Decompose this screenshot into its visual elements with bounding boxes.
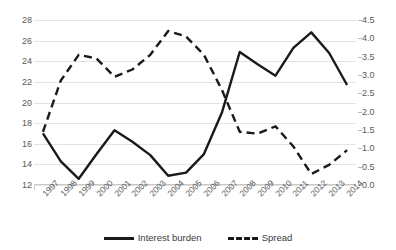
y-axis-right-tick-label: 3.5	[362, 52, 394, 61]
y-axis-right-tick-label: 3.0	[362, 71, 394, 80]
x-axis-tickmark	[52, 186, 53, 190]
x-axis-tickmark	[106, 186, 107, 190]
legend-swatch-dashed-icon	[228, 237, 258, 240]
x-axis-tickmark	[302, 186, 303, 190]
chart-legend: Interest burden Spread	[0, 228, 396, 248]
y-axis-right-tickmark	[358, 20, 362, 21]
y-axis-right-tickmark	[358, 38, 362, 39]
y-axis-right: 0.00.51.01.52.02.53.03.54.04.5	[360, 20, 394, 185]
x-axis-tickmark	[88, 186, 89, 190]
x-axis-tickmark	[213, 186, 214, 190]
x-axis-tickmark	[231, 186, 232, 190]
plot-area	[34, 20, 356, 185]
x-axis-tickmark	[141, 186, 142, 190]
y-axis-left-tickmark	[28, 164, 32, 165]
y-axis-right-tick-label: 2.0	[362, 107, 394, 116]
y-axis-left-tickmark	[28, 185, 32, 186]
legend-item-spread: Spread	[228, 233, 293, 243]
y-axis-right-tickmark	[358, 130, 362, 131]
legend-label-spread: Spread	[262, 233, 293, 243]
y-axis-left-tickmark	[28, 123, 32, 124]
y-axis-right-tick-label: 4.5	[362, 16, 394, 25]
y-axis-right-tickmark	[358, 112, 362, 113]
y-axis-right-tickmark	[358, 148, 362, 149]
x-axis-tickmark	[177, 186, 178, 190]
legend-item-interest-burden: Interest burden	[104, 233, 202, 243]
y-axis-left-tickmark	[28, 61, 32, 62]
x-axis-tickmark	[249, 186, 250, 190]
x-axis: 1997199819992000200120022003200420052006…	[34, 186, 356, 226]
y-axis-right-tickmark	[358, 167, 362, 168]
y-axis-right-tick-label: 2.5	[362, 89, 394, 98]
series-layer	[34, 20, 356, 185]
chart-container: 121416182022242628 0.00.51.01.52.02.53.0…	[0, 0, 396, 250]
y-axis-left-tickmark	[28, 20, 32, 21]
x-axis-tickmark	[123, 186, 124, 190]
x-axis-tickmark	[34, 186, 35, 190]
y-axis-left-tickmark	[28, 41, 32, 42]
legend-swatch-solid-icon	[104, 237, 134, 240]
y-axis-right-tickmark	[358, 75, 362, 76]
x-axis-tickmark	[320, 186, 321, 190]
x-axis-tickmark	[267, 186, 268, 190]
x-axis-tickmark	[338, 186, 339, 190]
series-line-spread	[43, 31, 347, 174]
x-axis-tickmark	[195, 186, 196, 190]
x-axis-tickmark	[356, 186, 357, 190]
y-axis-left: 121416182022242628	[0, 20, 32, 185]
y-axis-right-tick-label: 0.5	[362, 162, 394, 171]
x-axis-tickmark	[284, 186, 285, 190]
x-axis-tickmark	[159, 186, 160, 190]
y-axis-right-tickmark	[358, 57, 362, 58]
y-axis-left-tickmark	[28, 82, 32, 83]
legend-label-interest-burden: Interest burden	[138, 233, 202, 243]
y-axis-left-tickmark	[28, 144, 32, 145]
y-axis-right-tick-label: 0.0	[362, 181, 394, 190]
y-axis-right-tickmark	[358, 93, 362, 94]
y-axis-right-tick-label: 4.0	[362, 34, 394, 43]
y-axis-left-tickmark	[28, 103, 32, 104]
y-axis-right-tick-label: 1.5	[362, 126, 394, 135]
x-axis-tickmark	[70, 186, 71, 190]
y-axis-right-tick-label: 1.0	[362, 144, 394, 153]
